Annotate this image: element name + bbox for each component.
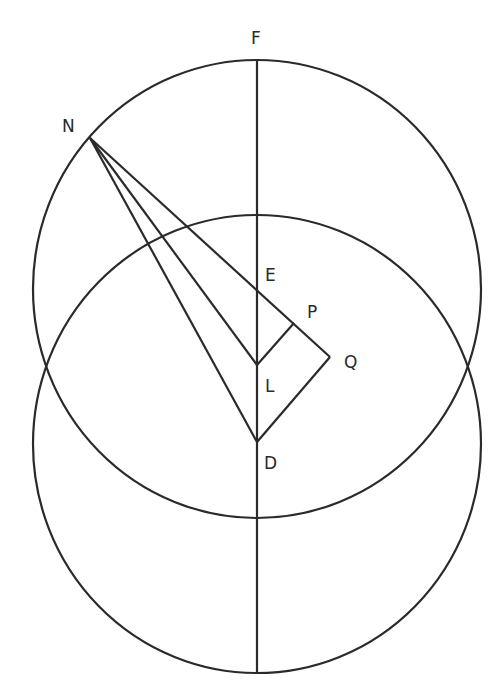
label-D: D — [264, 453, 277, 473]
segment-LP — [257, 323, 294, 365]
label-N: N — [62, 116, 75, 136]
label-Q: Q — [344, 352, 357, 372]
segment-NL — [90, 138, 257, 365]
label-L: L — [265, 376, 275, 396]
label-P: P — [307, 302, 317, 322]
label-E: E — [265, 265, 276, 285]
segment-ND — [90, 138, 257, 442]
geometry-diagram: F N E P Q L D — [0, 0, 498, 699]
label-F: F — [251, 28, 261, 48]
segment-DQ — [257, 357, 330, 442]
